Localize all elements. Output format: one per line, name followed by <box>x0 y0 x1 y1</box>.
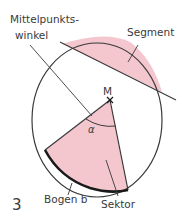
figure-number: 3 <box>12 196 22 214</box>
label-segment: Segment <box>127 26 174 38</box>
circle-diagram: Mittelpunkts- winkel Segment M α Bogen b… <box>0 0 184 219</box>
label-central-angle-2: winkel <box>15 29 48 41</box>
label-arc-b: Bogen b <box>44 193 88 205</box>
label-central-angle-1: Mittelpunkts- <box>10 13 79 25</box>
sector-area <box>45 100 128 192</box>
label-center-m: M <box>103 85 112 97</box>
label-sector: Sektor <box>101 198 136 210</box>
label-angle-alpha: α <box>88 124 95 135</box>
